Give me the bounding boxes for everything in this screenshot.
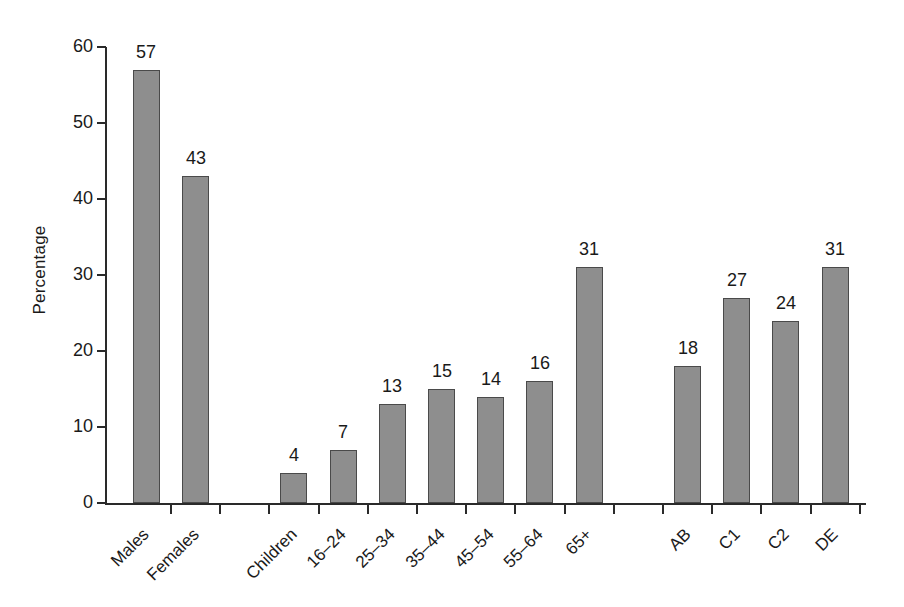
bar [330,450,357,503]
x-axis-category-label-text: Females [144,525,202,583]
bar-value-label: 31 [805,240,865,258]
x-axis-category-label-text: DE [812,525,841,554]
y-axis-tick [97,274,106,276]
bar-chart: Percentage 010203040506057Males43Females… [0,0,904,607]
y-axis-tick-label: 60 [47,37,93,55]
x-axis-category-label-text: 35–44 [403,525,448,570]
x-axis-category-label-text: 55–64 [501,525,546,570]
x-axis-tick [564,505,566,514]
y-axis-tick [97,350,106,352]
x-axis-category-label-text: 45–54 [452,525,497,570]
y-axis-tick [97,122,106,124]
x-axis-tick [613,505,615,514]
bar [379,404,406,503]
y-axis-tick-label: 50 [47,113,93,131]
x-axis-tick [170,505,172,514]
bar-value-label: 31 [559,240,619,258]
x-axis-tick [219,505,221,514]
x-axis-tick [268,505,270,514]
x-axis-category-label-text: AB [666,525,694,553]
bar [772,321,799,503]
bar [723,298,750,503]
x-axis-category-label-text: C1 [716,525,743,552]
bar-value-label: 14 [461,370,521,388]
bar [674,366,701,503]
x-axis-tick [859,505,861,514]
y-axis-tick-label: 30 [47,265,93,283]
y-axis-tick [97,46,106,48]
bar-value-label: 57 [116,43,176,61]
bar [182,176,209,503]
bar-value-label: 24 [756,294,816,312]
bar [526,381,553,503]
y-axis-tick [97,198,106,200]
x-axis-tick [465,505,467,514]
x-axis-tick [810,505,812,514]
y-axis-line [105,47,107,505]
y-axis-tick-label: 20 [47,341,93,359]
bar-value-label: 43 [166,149,226,167]
bar-value-label: 7 [313,423,373,441]
x-axis-tick [318,505,320,514]
y-axis-tick-label: 10 [47,417,93,435]
x-axis-tick [416,505,418,514]
x-axis-category-label-text: C2 [765,525,792,552]
bar [428,389,455,503]
bar-value-label: 27 [707,271,767,289]
bar [477,397,504,503]
y-axis-tick-label: 0 [47,493,93,511]
x-axis-tick [367,505,369,514]
x-axis-category-label-text: Males [108,525,152,569]
x-axis-tick [514,505,516,514]
y-axis-tick-label: 40 [47,189,93,207]
x-axis-category-label-text: 25–34 [353,525,398,570]
x-axis-category-label-text: 16–24 [304,525,349,570]
bar [133,70,160,503]
x-axis-tick [711,505,713,514]
bar [280,473,307,503]
x-axis-category-label-text: 65+ [563,525,595,557]
y-axis-tick [97,426,106,428]
x-axis-tick [662,505,664,514]
x-axis-tick [760,505,762,514]
bar-value-label: 4 [264,446,324,464]
bar-value-label: 18 [658,339,718,357]
bar [822,267,849,503]
bar-value-label: 16 [510,354,570,372]
bar [576,267,603,503]
